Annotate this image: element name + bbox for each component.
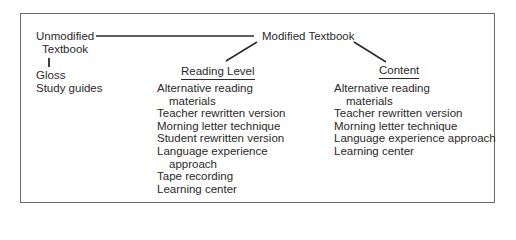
list-item: Morning letter technique xyxy=(334,120,496,133)
list-item: Learning center xyxy=(157,183,285,196)
list-item: Teacher rewritten version xyxy=(334,107,496,120)
list-item: Study guides xyxy=(36,82,103,95)
connector-modified-to-content xyxy=(354,42,386,62)
list-item: Learning center xyxy=(334,145,496,158)
list-item: Morning letter technique xyxy=(157,120,285,133)
reading-level-items-list: Alternative readingmaterials Teacher rew… xyxy=(157,82,285,195)
list-item: Student rewritten version xyxy=(157,132,285,145)
node-modified-textbook: Modified Textbook xyxy=(262,30,354,43)
list-item: Gloss xyxy=(36,69,103,82)
list-item: Alternative readingmaterials xyxy=(334,82,496,107)
content-items-list: Alternative readingmaterials Teacher rew… xyxy=(334,82,496,158)
branch-heading-reading-level: Reading Level xyxy=(181,65,255,80)
branch-heading-content: Content xyxy=(379,64,419,79)
list-item: Alternative readingmaterials xyxy=(157,82,285,107)
list-item: Language experienceapproach xyxy=(157,145,285,170)
unmodified-items-list: Gloss Study guides xyxy=(36,69,103,94)
connector-modified-to-reading-level xyxy=(226,42,257,61)
node-unmodified-line1: Unmodified xyxy=(36,30,94,43)
list-item: Teacher rewritten version xyxy=(157,107,285,120)
list-item: Tape recording xyxy=(157,170,285,183)
list-item: Language experience approach xyxy=(334,132,496,145)
node-unmodified-line2: Textbook xyxy=(42,43,88,56)
